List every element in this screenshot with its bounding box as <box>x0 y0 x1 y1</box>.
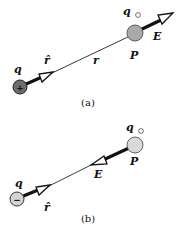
distance-label: r <box>93 54 100 67</box>
unit-vector-label: r̂ <box>44 54 51 67</box>
unit-vector-label: r̂ <box>44 201 51 214</box>
field-label: E <box>93 168 103 181</box>
subscript-zero-icon <box>139 129 144 134</box>
test-charge-point <box>127 137 143 153</box>
field-vector-arrowhead-icon <box>158 13 173 24</box>
field-label: E <box>152 30 162 43</box>
point-label: P <box>129 49 139 62</box>
test-charge-label: q <box>123 5 131 18</box>
source-charge-label: q <box>14 63 22 76</box>
caption-b: (b) <box>81 213 95 224</box>
electric-field-diagram: + q r̂ r q P E (a) − q r̂ E q P <box>0 0 177 225</box>
panel-b: − q r̂ E q P (b) <box>10 121 143 224</box>
source-charge-label: q <box>15 177 23 190</box>
panel-a: + q r̂ r q P E (a) <box>13 5 173 108</box>
distance-line <box>52 36 130 73</box>
field-vector-arrowhead-icon <box>91 156 107 165</box>
unit-vector-arrowhead-icon <box>36 185 50 195</box>
field-vector-shaft <box>103 148 129 160</box>
test-charge-label: q <box>126 121 134 134</box>
caption-a: (a) <box>81 97 95 108</box>
minus-sign-icon: − <box>13 195 21 205</box>
test-charge-point <box>127 25 143 41</box>
unit-vector-arrowhead-icon <box>39 72 53 82</box>
point-label: P <box>129 155 139 168</box>
distance-line <box>49 164 93 186</box>
subscript-zero-icon <box>136 13 141 18</box>
plus-sign-icon: + <box>16 83 24 93</box>
field-vector-shaft <box>140 20 161 30</box>
